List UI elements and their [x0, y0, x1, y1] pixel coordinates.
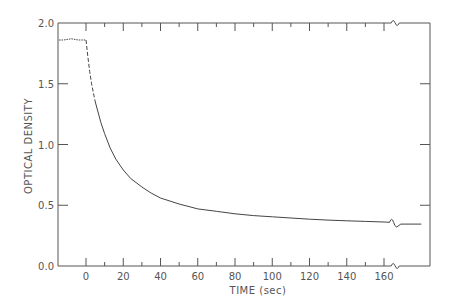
axis-ticks [58, 23, 430, 266]
x-tick-label: 100 [263, 271, 282, 282]
series-line [95, 102, 389, 222]
x-tick-label: 140 [337, 271, 356, 282]
x-axis-bottom [58, 264, 430, 269]
x-tick-label: 0 [83, 271, 89, 282]
y-tick-label: 2.0 [38, 18, 54, 29]
series-break-glitch [390, 219, 401, 227]
y-axis-label: OPTICAL DENSITY [23, 98, 34, 194]
x-tick-label: 20 [117, 271, 130, 282]
tick-labels: 0204060801001201401600.00.51.01.52.0 [38, 18, 393, 282]
x-tick-label: 160 [374, 271, 393, 282]
x-tick-label: 120 [300, 271, 319, 282]
data-series [59, 39, 421, 227]
plot-frame [58, 21, 430, 269]
y-tick-label: 1.5 [38, 79, 54, 90]
x-axis-label: TIME (sec) [229, 285, 287, 296]
series-line [86, 40, 95, 102]
x-tick-label: 80 [229, 271, 242, 282]
x-tick-label: 60 [191, 271, 204, 282]
series-line [59, 39, 86, 40]
optical-density-chart: 0204060801001201401600.00.51.01.52.0 TIM… [0, 0, 450, 304]
y-tick-label: 1.0 [38, 140, 54, 151]
x-tick-label: 40 [154, 271, 167, 282]
x-axis-top [58, 21, 430, 26]
y-tick-label: 0.5 [38, 200, 54, 211]
y-tick-label: 0.0 [38, 261, 54, 272]
